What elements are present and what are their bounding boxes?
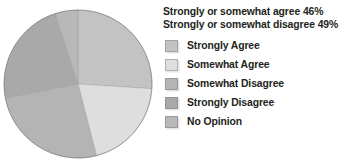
legend-item-somewhat-disagree: Somewhat Disagree xyxy=(163,74,342,93)
legend-panel: Strongly or somewhat agree 46% Strongly … xyxy=(163,6,342,131)
legend-item-strongly-agree: Strongly Agree xyxy=(163,36,342,55)
legend-item-no-opinion: No Opinion xyxy=(163,112,342,131)
legend-swatch-icon xyxy=(165,59,178,71)
legend-list: Strongly Agree Somewhat Agree Somewhat D… xyxy=(163,36,342,131)
legend-swatch-icon xyxy=(165,40,178,52)
pie-chart-graphic xyxy=(0,0,160,160)
pie-chart-figure: Strongly or somewhat agree 46% Strongly … xyxy=(0,0,342,160)
legend-item-somewhat-agree: Somewhat Agree xyxy=(163,55,342,74)
legend-item-strongly-disagree: Strongly Disagree xyxy=(163,93,342,112)
legend-swatch-icon xyxy=(165,97,178,109)
legend-label: No Opinion xyxy=(187,116,242,128)
pie-svg xyxy=(0,0,160,160)
pie-slice-strongly-agree xyxy=(78,10,152,89)
legend-label: Somewhat Agree xyxy=(187,59,270,71)
summary-disagree-line: Strongly or somewhat disagree 49% xyxy=(163,19,342,32)
summary-agree-line: Strongly or somewhat agree 46% xyxy=(163,6,342,19)
legend-label: Somewhat Disagree xyxy=(187,78,284,90)
legend-label: Strongly Disagree xyxy=(187,97,274,109)
legend-swatch-icon xyxy=(165,116,178,128)
pie-slices-group xyxy=(4,10,152,158)
legend-label: Strongly Agree xyxy=(187,40,260,52)
legend-swatch-icon xyxy=(165,78,178,90)
